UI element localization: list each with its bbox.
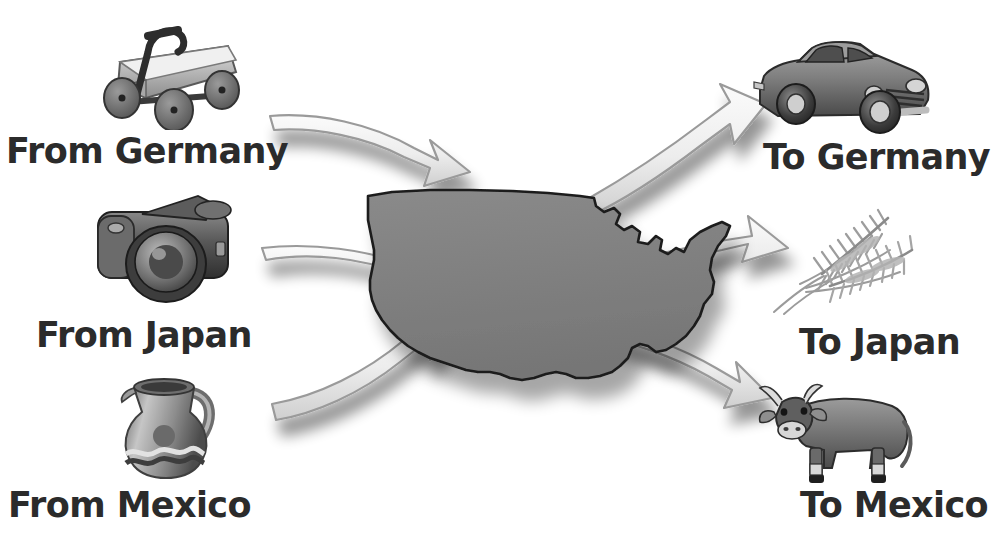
label-from-germany: From Germany <box>6 134 288 169</box>
inbound-arrow-mexico <box>272 302 464 420</box>
outbound-arrow-japan <box>592 216 788 286</box>
trade-flow-diagram: From Germany <box>0 0 996 538</box>
toy-wagon-icon <box>86 6 244 130</box>
inbound-arrow-japan <box>262 246 470 302</box>
outbound-arrow-mexico <box>588 320 772 408</box>
label-from-japan: From Japan <box>36 318 252 353</box>
car-icon <box>748 28 938 140</box>
label-to-germany: To Germany <box>763 140 990 175</box>
outbound-arrow-germany <box>586 84 766 216</box>
label-from-mexico: From Mexico <box>8 488 251 523</box>
label-to-mexico: To Mexico <box>800 488 988 523</box>
camera-icon <box>80 190 246 310</box>
inbound-arrow-germany <box>270 115 470 186</box>
cow-icon <box>752 362 918 490</box>
pottery-pitcher-icon <box>104 364 232 490</box>
label-to-japan: To Japan <box>799 325 960 360</box>
united-states-map <box>368 190 730 380</box>
wheat-icon <box>766 192 934 320</box>
